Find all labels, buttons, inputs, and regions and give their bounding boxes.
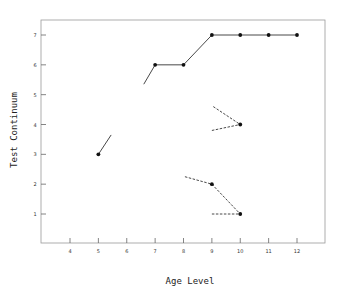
y-tick-label: 7 [33,32,36,38]
data-point [96,152,100,156]
dashed-line-segment [212,184,240,214]
x-axis-title: Age Level [166,276,215,286]
series-layer [96,33,298,216]
y-axis-title: Test Continuum [9,92,19,168]
x-tick-label: 8 [182,248,185,254]
dashed-line-segment [185,177,212,184]
data-point [238,212,242,216]
x-tick-label: 10 [237,248,243,254]
x-tick-label: 12 [294,248,300,254]
y-tick-label: 3 [33,151,36,157]
dashed-line-segment [213,107,240,125]
solid-line [155,35,297,65]
y-tick-label: 6 [33,62,36,68]
chart-canvas: 1234567 456789101112 Age Level Test Cont… [0,0,343,295]
x-tick-label: 5 [97,248,100,254]
solid-line-fragment [98,135,111,154]
y-tick-label: 2 [33,181,36,187]
x-tick-label: 9 [210,248,213,254]
data-point [153,63,157,67]
data-point [295,33,299,37]
x-tick-label: 11 [265,248,271,254]
data-point [210,182,214,186]
x-tick-label: 6 [125,248,128,254]
data-point [210,33,214,37]
y-axis-ticks: 1234567 [33,32,46,217]
data-point [238,123,242,127]
plot-frame [41,20,325,243]
y-tick-label: 1 [33,211,36,217]
x-tick-label: 7 [154,248,157,254]
data-point [182,63,186,67]
y-tick-label: 5 [33,92,36,98]
dashed-line-segment [212,125,240,131]
solid-line-fragment [144,65,155,84]
x-tick-label: 4 [68,248,71,254]
data-point [267,33,271,37]
y-tick-label: 4 [33,122,36,128]
data-point [238,33,242,37]
x-axis-ticks: 456789101112 [68,238,300,254]
